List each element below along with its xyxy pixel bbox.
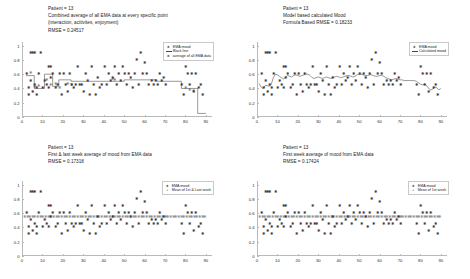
ema-mood-marker: [325, 205, 327, 207]
legend[interactable]: ✱EMA moodBlack line✱average of all EMA d…: [163, 42, 214, 61]
mean-marker: [322, 216, 324, 218]
x-tick-label: 60: [142, 258, 147, 263]
y-tick-mark: [22, 117, 24, 118]
ema-mood-marker: [268, 191, 270, 193]
x-tick-label: 20: [61, 258, 66, 263]
ema-mood-marker: [344, 219, 346, 221]
ema-mood-marker: [180, 84, 182, 86]
mean-marker: [161, 216, 163, 218]
ema-mood-marker: [278, 219, 280, 221]
y-tick-label: 0: [252, 115, 254, 120]
mean-marker: [319, 216, 321, 218]
mean-marker: [276, 216, 278, 218]
y-tick-label: 0: [252, 254, 254, 259]
mean-marker: [65, 216, 67, 218]
ema-mood-marker: [25, 73, 27, 75]
ema-mood-marker: [70, 223, 72, 225]
ema-mood-marker: [39, 52, 41, 54]
panel-title-line: First week average of mood from EMA data: [283, 151, 374, 158]
panel-title-line: RMSE = 0.24517: [48, 27, 168, 34]
ema-mood-marker: [147, 84, 149, 86]
ema-mood-marker: [90, 205, 92, 207]
ema-mood-marker: [117, 212, 119, 214]
ema-mood-marker: [86, 80, 88, 82]
ema-mood-marker: [152, 84, 154, 86]
ema-mood-marker: [370, 59, 372, 61]
legend[interactable]: ✱EMA mood+Mean of 1st & Last week: [162, 181, 214, 195]
x-tick-label: 50: [122, 119, 127, 124]
mean-marker: [372, 216, 374, 218]
mean-marker: [311, 216, 313, 218]
average-marker: [58, 87, 60, 89]
y-tick-label: 0.4: [14, 225, 20, 230]
ema-mood-marker: [305, 223, 307, 225]
ema-mood-marker: [264, 52, 266, 54]
ema-mood-marker: [201, 233, 203, 235]
ema-mood-marker: [417, 94, 419, 96]
ema-mood-marker: [33, 52, 35, 54]
ema-mood-marker: [49, 205, 51, 207]
legend-item: +Mean of 1st & Last week: [165, 188, 211, 193]
y-tick-mark: [257, 117, 259, 118]
ema-mood-marker: [299, 223, 301, 225]
ema-mood-marker: [282, 226, 284, 228]
ema-mood-marker: [385, 80, 387, 82]
ema-mood-marker: [94, 233, 96, 235]
mean-marker: [26, 216, 28, 218]
ema-mood-marker: [188, 223, 190, 225]
ema-mood-marker: [135, 198, 137, 200]
ema-mood-marker: [133, 212, 135, 214]
mean-marker: [356, 216, 358, 218]
ema-mood-marker: [289, 87, 291, 89]
ema-mood-marker: [86, 219, 88, 221]
ema-mood-marker: [311, 205, 313, 207]
ema-mood-marker: [182, 94, 184, 96]
ema-mood-marker: [194, 73, 196, 75]
mean-marker: [105, 216, 107, 218]
x-tick-label: 70: [398, 258, 403, 263]
ema-mood-marker: [432, 87, 434, 89]
legend-star-icon: +: [411, 188, 416, 193]
ema-mood-marker: [282, 87, 284, 89]
ema-mood-marker: [436, 233, 438, 235]
mean-marker: [425, 216, 427, 218]
panel-bottom-right: Patient = 13First week average of mood f…: [235, 139, 470, 279]
ema-mood-marker: [113, 205, 115, 207]
ema-mood-marker: [47, 66, 49, 68]
plot-area-0: 00.20.40.60.810102030405060708090✱EMA mo…: [22, 42, 212, 117]
x-tick-label: 50: [357, 258, 362, 263]
ema-mood-marker: [145, 73, 147, 75]
plot-area-2: 00.20.40.60.810102030405060708090✱EMA mo…: [22, 181, 212, 256]
mean-marker: [39, 216, 41, 218]
ema-mood-marker: [315, 223, 317, 225]
panel-bottom-left: Patient = 13First & last week average of…: [0, 139, 235, 279]
panel-title-block-2: Patient = 13First & last week average of…: [48, 144, 152, 166]
x-tick-label: 0: [21, 258, 23, 263]
ema-mood-marker: [64, 84, 66, 86]
ema-mood-marker: [27, 233, 29, 235]
ema-mood-marker: [305, 84, 307, 86]
mean-marker: [423, 216, 425, 218]
x-tick-label: 70: [398, 119, 403, 124]
ema-mood-marker: [356, 205, 358, 207]
ema-mood-marker: [429, 212, 431, 214]
ema-mood-marker: [270, 226, 272, 228]
ema-mood-marker: [137, 84, 139, 86]
mean-marker: [31, 216, 33, 218]
legend[interactable]: ✱EMA mood+Mean of 1st week: [408, 181, 449, 195]
ema-mood-marker: [380, 212, 382, 214]
ema-mood-marker: [354, 219, 356, 221]
ema-mood-marker: [346, 216, 348, 218]
legend[interactable]: ✱EMA moodCalculated mood: [409, 42, 449, 56]
ema-mood-marker: [423, 223, 425, 225]
ema-mood-marker: [352, 212, 354, 214]
mean-marker: [108, 216, 110, 218]
ema-mood-marker: [301, 91, 303, 93]
ema-mood-marker: [385, 219, 387, 221]
ema-mood-marker: [344, 80, 346, 82]
mean-marker: [268, 216, 270, 218]
ema-mood-marker: [360, 84, 362, 86]
mean-marker: [391, 216, 393, 218]
ema-mood-marker: [321, 219, 323, 221]
x-tick-label: 40: [101, 258, 106, 263]
